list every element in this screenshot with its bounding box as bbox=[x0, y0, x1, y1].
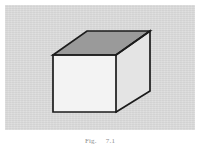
cube-drawing bbox=[0, 0, 200, 146]
figure-root: Fig.7.1 bbox=[0, 0, 200, 146]
cube-front-face bbox=[53, 55, 116, 112]
figure-caption-text: 7.1 bbox=[106, 137, 115, 145]
figure-caption-number: Fig. bbox=[85, 137, 97, 145]
figure-caption: Fig.7.1 bbox=[0, 137, 200, 146]
